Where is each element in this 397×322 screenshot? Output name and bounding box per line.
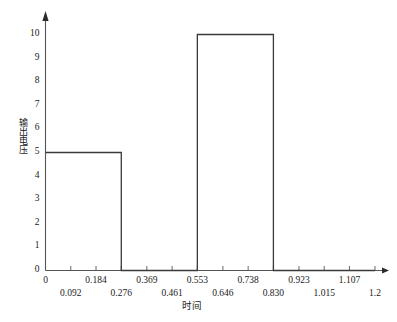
y-tick-label: 0 bbox=[22, 264, 40, 274]
y-tick-label: 8 bbox=[22, 75, 40, 85]
y-tick-label: 3 bbox=[22, 193, 40, 203]
y-tick-label: 9 bbox=[22, 52, 40, 62]
x-tick-label: 0.830 bbox=[253, 288, 293, 298]
x-axis-label: 时间 bbox=[182, 298, 202, 312]
axes-group bbox=[42, 11, 389, 274]
x-tick-label: 1.2 bbox=[355, 288, 395, 298]
x-tick-label: 0 bbox=[26, 275, 66, 285]
x-tick-label: 0.923 bbox=[279, 275, 319, 285]
y-tick-label: 1 bbox=[22, 240, 40, 250]
output-voltage-trace bbox=[46, 35, 376, 271]
y-tick-label: 5 bbox=[22, 146, 40, 156]
x-tick-label: 0.092 bbox=[51, 288, 91, 298]
y-tick-label: 10 bbox=[22, 28, 40, 38]
y-tick-label: 2 bbox=[22, 217, 40, 227]
chart-canvas: 输出电压 时间 109876543210 00.0920.1840.2760.3… bbox=[0, 0, 397, 322]
y-tick-label: 4 bbox=[22, 170, 40, 180]
x-tick-label: 0.184 bbox=[76, 275, 116, 285]
y-axis-arrow-icon bbox=[42, 11, 48, 21]
x-axis-arrow-icon bbox=[382, 267, 389, 273]
x-tick-label: 0.276 bbox=[101, 288, 141, 298]
x-tick-label: 0.369 bbox=[127, 275, 167, 285]
x-tick-label: 1.107 bbox=[329, 275, 369, 285]
x-tick-label: 0.461 bbox=[152, 288, 192, 298]
y-tick-label: 7 bbox=[22, 99, 40, 109]
x-tick-label: 0.646 bbox=[203, 288, 243, 298]
y-tick-label: 6 bbox=[22, 122, 40, 132]
x-tick-label: 0.738 bbox=[228, 275, 268, 285]
x-tick-label: 1.015 bbox=[304, 288, 344, 298]
waveform-plot bbox=[0, 0, 397, 322]
waveform-trace bbox=[46, 35, 376, 271]
x-tick-label: 0.553 bbox=[177, 275, 217, 285]
x-tick-marks bbox=[71, 266, 375, 271]
